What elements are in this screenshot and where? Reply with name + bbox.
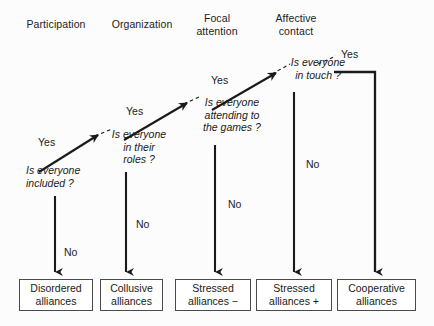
outcome-box-disordered-alliances: Disordered alliances: [19, 279, 93, 311]
outcome-box-collusive-alliances: Collusive alliances: [100, 279, 163, 311]
question-focal-attention: Is everyone attending to the games ?: [188, 96, 276, 134]
yes-label-3: Yes: [211, 74, 228, 86]
connector-lines: [0, 0, 434, 326]
no-label-3: No: [228, 198, 241, 210]
no-label-1: No: [64, 246, 77, 258]
outcome-box-stressed-alliances-negative: Stressed alliances −: [175, 279, 251, 311]
question-affective-contact: Is everyone in touch ?: [282, 56, 354, 81]
yes-label-2: Yes: [126, 105, 143, 117]
outcome-label: Stressed alliances −: [188, 282, 238, 308]
outcome-box-cooperative-alliances: Cooperative alliances: [337, 279, 416, 311]
flowchart-canvas: Participation Organization Focal attenti…: [0, 0, 434, 326]
no-label-4: No: [306, 158, 319, 170]
no-label-2: No: [136, 218, 149, 230]
outcome-label: Stressed alliances +: [269, 282, 319, 308]
outcome-label: Disordered alliances: [30, 282, 81, 308]
question-organization: Is everyone in their roles ?: [106, 128, 172, 166]
outcome-label: Collusive alliances: [110, 282, 153, 308]
outcome-box-stressed-alliances-positive: Stressed alliances +: [256, 279, 332, 311]
outcome-label: Cooperative alliances: [348, 282, 405, 308]
yes-label-1: Yes: [38, 136, 55, 148]
question-participation: Is everyone included ?: [26, 164, 118, 189]
final-yes-connector: [334, 72, 375, 272]
